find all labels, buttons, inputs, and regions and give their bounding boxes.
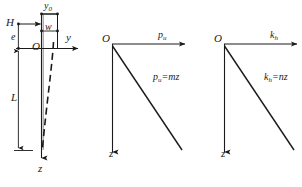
- y0-dim-node-right: [56, 13, 59, 16]
- label-e-eccentricity: e: [11, 32, 15, 42]
- label-pu-axis: pu: [158, 30, 167, 40]
- label-kh-axis: kh: [270, 30, 278, 40]
- label-origin-O-pu: O: [102, 33, 110, 44]
- w-dim-node-left: [40, 30, 43, 33]
- label-pu-axis-subscript: u: [163, 34, 167, 42]
- label-z-axis-pu: z: [109, 148, 113, 159]
- equation-kh-lhs-subscript: h: [268, 76, 272, 84]
- label-origin-O-pile: O: [32, 41, 40, 52]
- deflected-shape-curve: [43, 42, 54, 148]
- y0-dim-node-left: [40, 13, 43, 16]
- kh-distribution-line: [225, 46, 295, 150]
- figure-root: H e O y w y0 L z O pu pu=mz z O kh kh=nz…: [0, 0, 302, 187]
- label-w-pile-width: w: [45, 22, 52, 32]
- equation-pu-lhs-subscript: u: [158, 76, 162, 84]
- equation-kh-rhs: =nz: [272, 71, 288, 82]
- equation-pu-rhs: =mz: [162, 71, 180, 82]
- e-dim-node-bottom: [17, 47, 20, 50]
- label-origin-O-kh: O: [214, 33, 222, 44]
- pu-distribution-line: [113, 46, 183, 150]
- equation-kh-nz: kh=nz: [264, 72, 288, 82]
- w-dim-node-right: [56, 30, 59, 33]
- label-z-axis-pile: z: [38, 163, 42, 174]
- label-y-axis-pile: y: [66, 32, 71, 43]
- label-y0-ground-deflection: y0: [44, 1, 52, 11]
- panel-subgrade-modulus: [224, 44, 297, 152]
- equation-pu-mz: pu=mz: [153, 72, 179, 82]
- label-y0-subscript: 0: [48, 5, 52, 13]
- label-kh-axis-subscript: h: [274, 34, 278, 42]
- label-H-force: H: [6, 17, 14, 28]
- label-L-embedded-length: L: [11, 92, 17, 103]
- label-z-axis-kh: z: [221, 148, 225, 159]
- panel-ultimate-resistance: [112, 44, 185, 152]
